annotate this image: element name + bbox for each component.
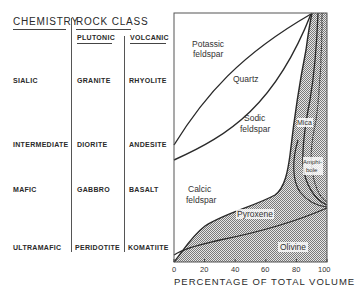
x-tick-80: 80 — [292, 265, 300, 274]
label-amphibole-2: bole — [306, 167, 318, 173]
x-tick-60: 60 — [261, 265, 269, 274]
label-sodic-feldspar-2: feldspar — [240, 124, 270, 134]
x-axis-title: PERCENTAGE OF TOTAL VOLUME — [174, 276, 355, 287]
x-tick-40: 40 — [231, 265, 239, 274]
label-olivine: Olivine — [280, 242, 306, 252]
label-calcic-feldspar-2: feldspar — [186, 195, 216, 205]
label-sodic-feldspar-1: Sodic — [244, 113, 266, 123]
label-calcic-feldspar-1: Calcic — [188, 184, 212, 194]
label-potassic-feldspar-2: feldspar — [193, 49, 223, 59]
label-mica: Mica — [297, 119, 312, 126]
quartz-sodic-boundary — [174, 14, 311, 160]
label-pyroxene: Pyroxene — [237, 209, 273, 219]
x-tick-20: 20 — [200, 265, 208, 274]
x-tick-0: 0 — [172, 265, 176, 274]
label-amphibole-1: Amphi- — [303, 159, 322, 165]
label-quartz: Quartz — [233, 74, 259, 84]
x-tick-100: 100 — [318, 265, 331, 274]
label-potassic-feldspar-1: Potassic — [192, 39, 225, 49]
